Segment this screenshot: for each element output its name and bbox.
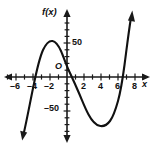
x-axis-group xyxy=(4,73,150,80)
x-tick-label-neg2: –2 xyxy=(44,82,54,91)
y-axis-group xyxy=(63,9,70,143)
x-tick-label-2: 2 xyxy=(81,82,86,91)
curve-arrow-up-right xyxy=(128,11,135,22)
graph-canvas xyxy=(0,0,154,148)
y-axis-arrow-down xyxy=(63,135,70,143)
function-curve xyxy=(24,18,132,135)
y-tick-label-50: 50 xyxy=(72,38,82,47)
x-tick-label-8: 8 xyxy=(132,82,137,91)
x-tick-label-6: 6 xyxy=(115,82,120,91)
origin-label: O xyxy=(55,62,62,71)
curve-arrow-down-left xyxy=(20,131,27,141)
y-tick-label-neg50: –50 xyxy=(44,104,59,113)
x-tick-label-neg6: –6 xyxy=(10,82,20,91)
function-label: f(x) xyxy=(42,7,57,17)
x-tick-label-4: 4 xyxy=(98,82,103,91)
x-axis-label: x xyxy=(142,80,147,89)
graph-figure: f(x) x O 50 –50 –6 –4 –2 2 4 6 8 xyxy=(0,0,154,148)
x-tick-label-neg4: –4 xyxy=(27,82,37,91)
